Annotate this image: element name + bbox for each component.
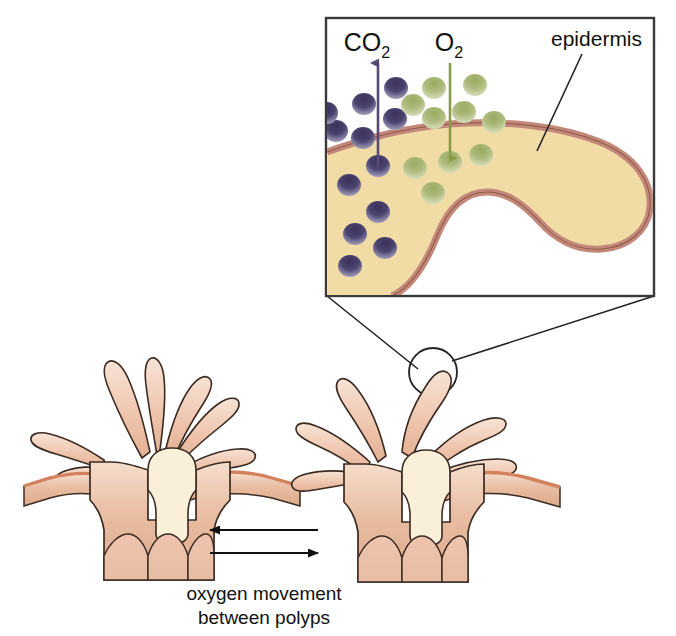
left-polyp-pharynx xyxy=(148,448,196,544)
figure-root: CO2 O2 epidermis xyxy=(0,0,676,636)
coral-gas-exchange-figure: CO2 O2 epidermis xyxy=(0,0,676,636)
caption-line-1: oxygen movement xyxy=(186,583,342,604)
right-polyp xyxy=(292,371,560,582)
oxygen-exchange-arrows xyxy=(210,530,318,553)
caption-line-2: between polyps xyxy=(198,607,330,628)
epidermis-label: epidermis xyxy=(551,27,642,50)
left-polyp-septa xyxy=(104,534,214,580)
epidermis-inset: CO2 O2 epidermis xyxy=(316,18,654,296)
caption: oxygen movement between polyps xyxy=(186,583,342,628)
right-polyp-pharynx xyxy=(402,450,450,546)
inset-leader-lines xyxy=(327,296,654,369)
right-polyp-septa xyxy=(358,536,468,582)
left-polyp xyxy=(24,358,300,580)
